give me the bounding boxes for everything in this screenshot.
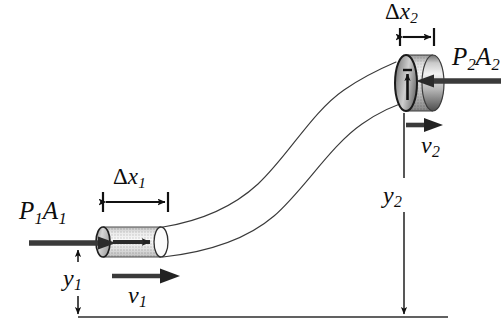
pressure-force-arrow-1 <box>29 237 116 250</box>
label-velocity-2: v2 <box>421 133 440 160</box>
displacement-bracket-2 <box>400 28 434 46</box>
label-height-2: y2 <box>383 183 402 210</box>
label-displacement-2: Δx2 <box>385 0 418 25</box>
label-displacement-1: Δx1 <box>113 165 146 190</box>
displacement-bracket-1 <box>103 192 168 212</box>
velocity-arrow-1 <box>112 269 180 284</box>
label-velocity-1: v1 <box>128 283 147 310</box>
label-height-1: y1 <box>63 266 82 293</box>
pressure-force-arrow-2 <box>416 75 501 88</box>
label-pressure-force-1: P1A1 <box>19 198 67 227</box>
curved-pipe-tube <box>163 62 410 257</box>
velocity-arrow-2 <box>406 118 443 132</box>
label-pressure-force-2: P2A2 <box>452 44 500 73</box>
bernoulli-flow-diagram: P1A1 P2A2 Δx1 Δx2 y1 y2 v1 v2 <box>0 0 501 329</box>
